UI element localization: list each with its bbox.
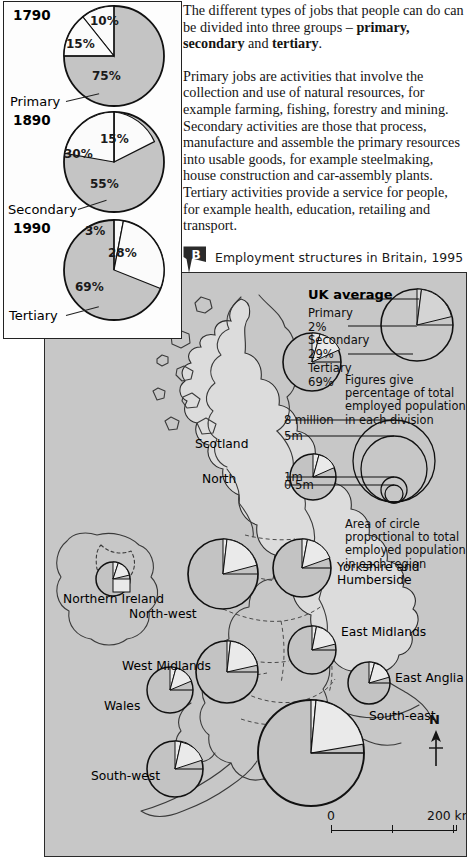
uk-legend-primary-label: Primary <box>308 306 353 320</box>
map-scale-bar: 0 200 km <box>331 811 455 841</box>
pie-1890 <box>62 110 166 214</box>
scale-tick-0 <box>331 825 332 833</box>
para1-part-a: The different types of jobs that people … <box>183 2 464 35</box>
inset-category-primary: Primary <box>10 94 60 109</box>
scale-end-label: 200 km <box>427 808 467 823</box>
svg-text:B: B <box>192 248 201 262</box>
pie-1890-label-55: 55% <box>90 177 119 191</box>
map-label-west-midlands: West Midlands <box>122 660 211 673</box>
map-label-north-west: North-west <box>129 608 197 621</box>
pie-1790-label-10: 10% <box>90 14 119 28</box>
region-pie-north-west <box>188 539 258 609</box>
pie-1990-label-28: 28% <box>108 246 137 260</box>
pie-1790-label-15: 15% <box>66 37 95 51</box>
size-legend-05m: 0.5m <box>284 478 314 492</box>
map-label-wales: Wales <box>104 700 140 713</box>
scale-tick-mid <box>392 825 393 833</box>
scale-start-label: 0 <box>327 808 335 823</box>
scale-tick-end <box>453 825 454 833</box>
caption-text: Employment structures in Britain, 1995 <box>215 250 463 265</box>
map-label-yorkshire-humberside: Yorkshire and Humberside <box>337 561 433 588</box>
paragraph-1: The different types of jobs that people … <box>183 2 465 52</box>
region-pie-east-anglia <box>348 662 390 704</box>
inset-category-secondary: Secondary <box>8 202 77 217</box>
size-legend-8million: 8 million <box>284 413 334 427</box>
paragraph-2: Primary jobs are activities that involve… <box>183 68 465 234</box>
north-arrow-icon: N <box>425 714 447 768</box>
map-panel: UK average Primary 2% Secondary 29% Tert… <box>44 272 467 857</box>
map-label-northern-ireland: Northern Ireland <box>63 593 164 606</box>
pie-1990-label-3: 3% <box>85 224 105 238</box>
uk-legend-secondary-label: Secondary <box>308 333 369 347</box>
pie-1990-label-69: 69% <box>75 280 104 294</box>
figure-page: The different types of jobs that people … <box>0 0 472 857</box>
map-label-east-midlands: East Midlands <box>341 626 426 639</box>
region-pie-east-midlands <box>288 626 336 674</box>
uk-legend-secondary-value: 29% <box>308 347 334 361</box>
inset-year-1790: 1790 <box>13 7 51 23</box>
figure-marker-flag-icon: B <box>183 246 207 274</box>
uk-average-title: UK average <box>308 287 393 302</box>
pie-1990 <box>62 218 166 322</box>
region-pie-northern-ireland <box>96 562 130 596</box>
para1-part-c: . <box>319 35 323 51</box>
map-label-scotland: Scotland <box>195 438 248 451</box>
inset-year-1990: 1990 <box>13 220 51 236</box>
map-label-south-west: South-west <box>91 770 160 783</box>
scale-bar-line <box>331 825 457 831</box>
pie-1890-label-30: 30% <box>64 147 93 161</box>
region-pie-wales <box>147 667 193 713</box>
inset-year-1890: 1890 <box>13 112 51 128</box>
historic-employment-inset: 1790 10% 15% 75% Primary 1890 15% 30% 55… <box>3 1 182 339</box>
uk-legend-tertiary-value: 69% <box>308 375 334 389</box>
pie-1790-label-75: 75% <box>92 69 121 83</box>
figure-caption: B Employment structures in Britain, 1995 <box>183 246 468 268</box>
uk-legend-primary-value: 2% <box>308 320 326 334</box>
article-text: The different types of jobs that people … <box>183 2 465 250</box>
map-label-north: North <box>202 473 236 486</box>
inset-category-tertiary: Tertiary <box>9 308 58 323</box>
pie-1890-label-15: 15% <box>100 132 129 146</box>
map-label-east-anglia: East Anglia <box>395 672 464 685</box>
region-pie-south-east <box>258 700 364 806</box>
north-arrow-label: N <box>429 712 440 727</box>
size-legend-5m: 5m <box>284 429 303 443</box>
para1-bold-2: tertiary <box>272 35 318 51</box>
legend-note-percentages: Figures give percentage of total employe… <box>345 374 467 427</box>
region-pie-yorkshire-humberside <box>273 539 331 597</box>
para1-part-b: and <box>244 35 272 51</box>
